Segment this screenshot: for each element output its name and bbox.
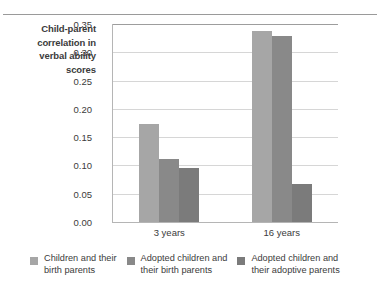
y-axis-title-line-4: scores [8, 63, 96, 77]
bar-chart-figure: Child-parent correlation in verbal abili… [0, 0, 384, 291]
bar-16-years-series-3 [292, 184, 312, 222]
bar-16-years-series-1 [252, 31, 272, 222]
legend-swatch-icon [237, 257, 245, 265]
y-axis-tick-label: 0.20 [56, 104, 92, 115]
bar-3-years-series-2 [159, 159, 179, 222]
y-axis-tick-label: 0.25 [56, 76, 92, 87]
y-axis-tick-label: 0.30 [56, 47, 92, 58]
legend-item-3[interactable]: Adopted children and their adoptive pare… [237, 253, 339, 276]
legend-item-2[interactable]: Adopted children and their birth parents [127, 253, 228, 276]
top-divider-rule [3, 14, 377, 15]
chart-legend: Children and their birth parentsAdopted … [30, 253, 378, 276]
legend-swatch-icon [30, 257, 38, 265]
x-axis-category-label: 16 years [264, 227, 300, 238]
legend-label: Adopted children and their birth parents [141, 253, 228, 276]
y-axis-tick-label: 0.15 [56, 132, 92, 143]
y-axis-tick-label: 0.00 [56, 217, 92, 228]
x-axis-category-label: 3 years [154, 227, 185, 238]
bars-layer [113, 24, 338, 222]
bar-16-years-series-2 [272, 36, 292, 222]
y-axis-tick-label: 0.35 [56, 19, 92, 30]
legend-item-1[interactable]: Children and their birth parents [30, 253, 117, 276]
legend-label: Children and their birth parents [44, 253, 117, 276]
x-axis-line [112, 222, 338, 223]
bar-3-years-series-1 [139, 124, 159, 222]
legend-label: Adopted children and their adoptive pare… [251, 253, 339, 276]
bar-3-years-series-3 [179, 168, 199, 222]
y-axis-tick-label: 0.05 [56, 189, 92, 200]
legend-swatch-icon [127, 257, 135, 265]
y-axis-tick-label: 0.10 [56, 160, 92, 171]
